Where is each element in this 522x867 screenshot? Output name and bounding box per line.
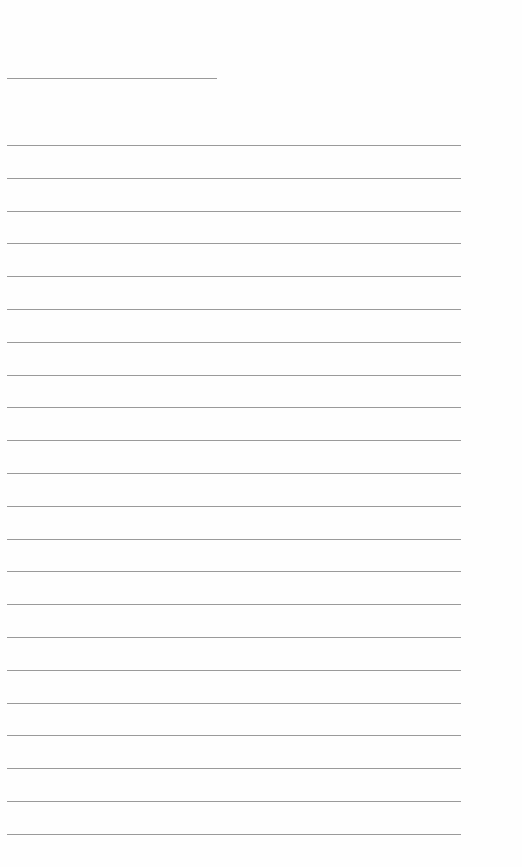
ruled-line	[7, 539, 461, 540]
ruled-line	[7, 703, 461, 704]
ruled-line	[7, 768, 461, 769]
ruled-line	[7, 375, 461, 376]
ruled-line	[7, 309, 461, 310]
ruled-line	[7, 440, 461, 441]
ruled-line	[7, 834, 461, 835]
ruled-line	[7, 735, 461, 736]
ruled-line	[7, 243, 461, 244]
ruled-line	[7, 407, 461, 408]
header-line	[7, 78, 217, 79]
ruled-line	[7, 473, 461, 474]
ruled-line	[7, 571, 461, 572]
ruled-line	[7, 801, 461, 802]
ruled-line	[7, 670, 461, 671]
ruled-line	[7, 637, 461, 638]
ruled-line	[7, 178, 461, 179]
ruled-line	[7, 506, 461, 507]
ruled-line	[7, 211, 461, 212]
ruled-line	[7, 145, 461, 146]
ruled-line	[7, 342, 461, 343]
lined-page	[0, 0, 522, 867]
ruled-line	[7, 604, 461, 605]
ruled-line	[7, 276, 461, 277]
